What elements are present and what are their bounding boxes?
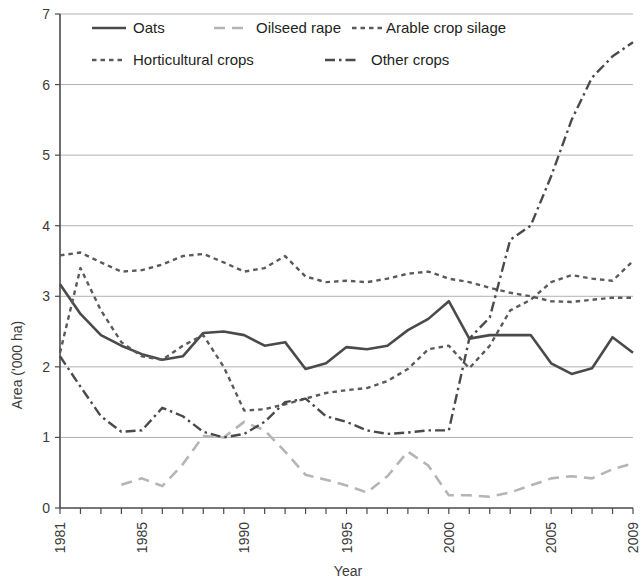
legend-label-horticultural-crops: Horticultural crops [133,51,254,68]
x-tick-label: 1995 [339,522,355,553]
x-axis-ticks [60,508,633,514]
legend: OatsOilseed rapeArable crop silageHortic… [92,19,506,68]
chart-canvas: 01234567 1981198519901995200020052009 Ar… [0,0,644,580]
y-tick-label: 6 [42,77,50,93]
line-chart: 01234567 1981198519901995200020052009 Ar… [0,0,644,580]
series-line-oats [60,284,633,374]
legend-label-oats: Oats [133,19,165,36]
legend-label-oilseed-rape: Oilseed rape [256,19,341,36]
axes [60,14,633,508]
y-tick-label: 4 [42,218,50,234]
x-tick-label: 1985 [134,522,150,553]
y-tick-label: 7 [42,6,50,22]
y-axis-tick-labels: 01234567 [42,6,50,516]
series-line-arable-crop-silage [60,261,633,411]
x-tick-label: 2009 [625,522,641,553]
y-tick-label: 5 [42,147,50,163]
x-tick-label: 2005 [543,522,559,553]
y-axis-title: Area ('000 ha) [9,321,25,409]
series-line-other-crops [60,42,633,437]
x-axis-title: Year [334,563,363,579]
legend-label-other-crops: Other crops [371,51,449,68]
y-tick-label: 2 [42,359,50,375]
x-axis-tick-labels: 1981198519901995200020052009 [52,522,641,553]
gridlines [60,14,633,437]
x-tick-label: 2000 [441,522,457,553]
y-tick-label: 3 [42,288,50,304]
x-tick-label: 1990 [236,522,252,553]
series-line-horticultural-crops [60,253,633,302]
y-tick-label: 0 [42,500,50,516]
series-lines [60,42,633,496]
legend-label-arable-crop-silage: Arable crop silage [386,19,506,36]
y-tick-label: 1 [42,429,50,445]
x-tick-label: 1981 [52,522,68,553]
